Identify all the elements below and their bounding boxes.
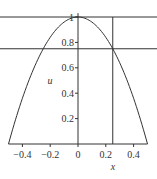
chart: 0.20.40.60.81−0.4−0.200.20.4xu [0, 0, 157, 179]
y-tick-label: 0.8 [62, 37, 75, 48]
y-tick-label: 1 [69, 12, 74, 23]
x-axis-label: x [110, 161, 116, 172]
y-tick-label: 0.2 [62, 113, 75, 124]
y-tick-label: 0.6 [62, 62, 75, 73]
x-tick-label: 0.2 [100, 149, 113, 160]
x-tick-label: −0.4 [13, 149, 31, 160]
x-tick-label: 0.4 [127, 149, 140, 160]
y-axis-label: u [48, 75, 53, 86]
x-tick-label: 0 [76, 149, 81, 160]
y-tick-label: 0.4 [62, 88, 75, 99]
chart-plot: 0.20.40.60.81−0.4−0.200.20.4xu [0, 0, 157, 179]
x-tick-label: −0.2 [41, 149, 59, 160]
